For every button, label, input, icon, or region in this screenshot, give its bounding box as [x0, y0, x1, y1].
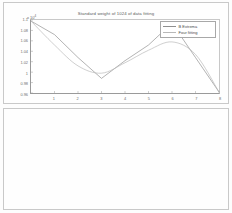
y-tick-label: 1.02 — [20, 59, 28, 64]
y-axis-exponent-power-top: 4 — [35, 14, 37, 18]
x-tick-label: 8 — [219, 96, 221, 101]
figure-bottom-frame — [3, 108, 229, 210]
y-tick-label: 1 — [26, 70, 28, 75]
y-axis-ticks-top: 1.11.081.061.041.0210.980.96 — [0, 19, 28, 94]
x-tick-label: 1 — [53, 96, 55, 101]
legend-top[interactable]: B ExtremaFour fitting — [160, 21, 216, 38]
x-tick-label: 4 — [124, 96, 126, 101]
y-tick-label: 1.08 — [20, 27, 28, 32]
legend-swatch-icon — [163, 32, 176, 33]
x-tick-label: 6 — [171, 96, 173, 101]
y-tick-label: 1.06 — [20, 38, 28, 43]
y-tick-label: 1.1 — [23, 17, 28, 22]
x-tick-label: 3 — [100, 96, 102, 101]
legend-item[interactable]: Four fitting — [163, 30, 213, 36]
y-tick-label: 0.96 — [20, 92, 28, 97]
figure-page: Standard weight of 1024 of data fitting … — [0, 0, 232, 213]
figure-top: Standard weight of 1024 of data fitting … — [0, 0, 232, 106]
x-axis-ticks-top: 12345678 — [30, 96, 220, 105]
legend-label: Four fitting — [179, 30, 198, 36]
x-tick-label: 7 — [195, 96, 197, 101]
y-tick-label: 0.98 — [20, 81, 28, 86]
figure-bottom: Standard weight of 1024 of data fitting … — [0, 106, 232, 212]
legend-swatch-icon — [163, 26, 176, 27]
x-tick-label: 2 — [76, 96, 78, 101]
x-tick-label: 5 — [148, 96, 150, 101]
y-tick-label: 1.04 — [20, 49, 28, 54]
